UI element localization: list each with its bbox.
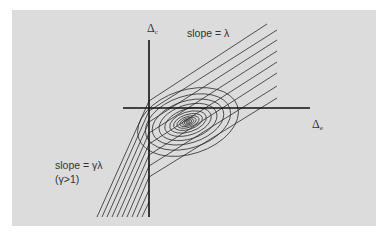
lower-slope-condition: (γ>1)	[55, 174, 79, 185]
upper-slope-lines	[149, 24, 277, 177]
horizontal-axis-symbol: Δ	[312, 117, 320, 131]
contour-ellipses	[129, 75, 248, 168]
lower-slope-annotation: slope = γλ	[55, 160, 103, 171]
lower-slope-lines	[97, 101, 149, 217]
vertical-axis-subscript: c	[155, 28, 158, 36]
vertical-axis-label: Δc	[147, 22, 158, 36]
horizontal-axis-subscript: e	[320, 124, 323, 132]
horizontal-axis-label: Δe	[312, 118, 323, 132]
upper-slope-annotation: slope = λ	[187, 28, 229, 39]
vertical-axis-symbol: Δ	[147, 21, 155, 35]
